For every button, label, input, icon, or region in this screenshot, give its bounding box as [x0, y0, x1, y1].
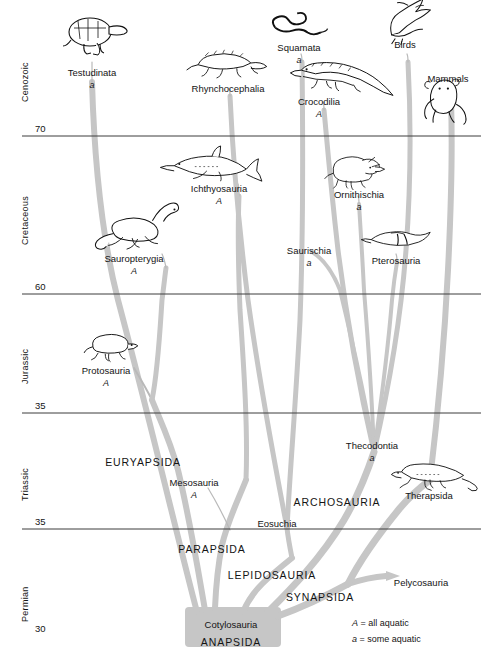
ichthyosaur-icon	[160, 146, 261, 181]
plesiosaur-icon	[95, 203, 178, 249]
taxon-label-protosauria: Protosauria	[82, 366, 131, 376]
legend-symbol-a: a	[352, 634, 357, 644]
mammal-icon	[425, 79, 466, 124]
legend-all-aquatic: A = all aquatic	[352, 618, 409, 628]
aquatic-marker-sauropterygia: A	[131, 267, 137, 276]
tick-label-2: 35	[35, 400, 46, 411]
aquatic-marker-crocodilia: A	[316, 110, 322, 119]
aquatic-marker-saurischia: a	[306, 259, 311, 268]
legend-text-1: some aquatic	[367, 634, 421, 644]
taxon-label-archosauria: ARCHOSAURIA	[294, 497, 381, 508]
crocodile-icon	[290, 62, 393, 95]
taxon-label-saurischia: Saurischia	[287, 246, 331, 256]
snake-icon	[273, 13, 328, 34]
legend-text-0: all aquatic	[368, 618, 409, 628]
tick-label-4: 30	[35, 623, 46, 634]
taxon-label-synapsida: SYNAPSIDA	[286, 592, 354, 603]
period-label-triassic: Triassic	[20, 441, 30, 501]
taxon-label-mammals: Mammals	[427, 74, 468, 84]
period-label-cenozoic: Cenozoic	[20, 42, 30, 102]
aquatic-marker-protosauria: A	[103, 379, 109, 388]
period-label-cretaceous: Cretaceous	[20, 185, 30, 245]
legend-equals-1: =	[360, 634, 365, 644]
taxon-label-pelycosauria: Pelycosauria	[394, 578, 448, 588]
taxon-label-thecodontia: Thecodontia	[346, 441, 398, 451]
aquatic-marker-thecodontia: a	[369, 454, 374, 463]
taxon-label-birds: Birds	[394, 40, 416, 50]
aquatic-marker-mesosauria: A	[191, 491, 197, 500]
period-label-permian: Permian	[20, 562, 30, 622]
legend-equals-0: =	[361, 618, 366, 628]
taxon-label-therapsida: Therapsida	[405, 491, 453, 501]
period-label-jurassic: Jurassic	[20, 324, 30, 384]
pterosaur-icon	[361, 232, 430, 246]
taxon-label-parapsida: PARAPSIDA	[178, 544, 245, 555]
taxon-label-eosuchia: Eosuchia	[257, 519, 296, 529]
taxon-label-mesosauria: Mesosauria	[169, 478, 218, 488]
animal-illustrations	[63, 0, 477, 491]
lizard-icon	[187, 50, 267, 78]
taxon-label-euryapsida: EURYAPSIDA	[105, 457, 181, 468]
taxon-label-squamata: Squamata	[277, 43, 320, 53]
taxon-label-sauropterygia: Sauropterygia	[104, 254, 163, 264]
tortoise-icon	[63, 18, 127, 55]
taxon-label-crocodilia: Crocodilia	[298, 97, 340, 107]
taxon-label-testudinata: Testudinata	[68, 68, 117, 78]
therapsid-icon	[391, 464, 477, 491]
taxon-label-cotylosauria: Cotylosauria	[205, 620, 258, 630]
taxon-label-anapsida: ANAPSIDA	[201, 637, 261, 648]
tree-canvas	[0, 0, 481, 660]
taxon-label-ichthyosauria: Ichthyosauria	[191, 184, 248, 194]
tree-branches	[92, 54, 452, 647]
legend-symbol-A: A	[352, 618, 358, 628]
legend-some-aquatic: a = some aquatic	[352, 634, 421, 644]
taxon-label-ornithischia: Ornithischia	[334, 190, 384, 200]
taxon-label-rhynchocephalia: Rhynchocephalia	[192, 84, 265, 94]
tick-label-3: 35	[35, 516, 46, 527]
phylogenetic-tree-figure: CenozoicCretaceousJurassicTriassicPermia…	[0, 0, 481, 660]
taxon-label-pterosauria: Pterosauria	[372, 256, 421, 266]
aquatic-marker-squamata: a	[296, 56, 301, 65]
tick-label-1: 60	[35, 281, 46, 292]
aquatic-marker-ornithischia: a	[356, 203, 361, 212]
taxon-label-lepidosauria: LEPIDOSAURIA	[228, 570, 316, 581]
tick-label-0: 70	[35, 123, 46, 134]
aquatic-marker-testudinata: a	[89, 81, 94, 90]
aquatic-marker-ichthyosauria: A	[216, 197, 222, 206]
